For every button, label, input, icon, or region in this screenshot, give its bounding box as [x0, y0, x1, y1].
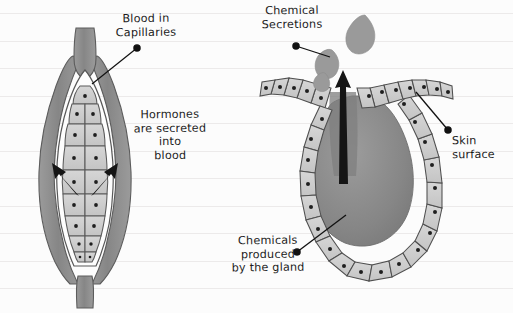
leader-dot-chemsec	[293, 43, 299, 49]
label-skin-surface: Skin surface	[452, 134, 510, 162]
diagram-page: Blood in Capillaries Hormones are secret…	[0, 0, 513, 313]
droplet-large	[346, 15, 375, 54]
label-chemical-secretions: Chemical Secretions	[240, 3, 344, 31]
endocrine-gland-left	[39, 28, 131, 308]
lower-vessel-stalk	[76, 276, 93, 308]
label-hormones-secreted: Hormones are secreted into blood	[122, 107, 219, 162]
upper-vessel-stalk	[74, 28, 96, 76]
droplet-small	[314, 73, 330, 92]
label-chemicals-produced: Chemicals produced by the gland	[212, 233, 324, 275]
leader-dot-skin	[445, 127, 451, 133]
leader-dot-blood	[134, 45, 140, 51]
label-blood-in-capillaries: Blood in Capillaries	[98, 11, 194, 39]
